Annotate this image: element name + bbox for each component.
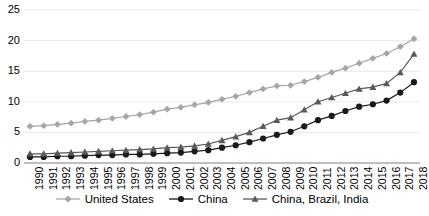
data-point-marker bbox=[205, 99, 212, 106]
data-point-marker bbox=[95, 117, 102, 124]
legend-item-label: China, Brazil, India bbox=[272, 193, 369, 205]
data-point-marker bbox=[27, 123, 34, 130]
x-tick-label: 2007 bbox=[267, 167, 278, 190]
x-tick-label: 2006 bbox=[253, 167, 264, 190]
data-point-marker bbox=[301, 123, 307, 129]
data-point-marker bbox=[178, 149, 184, 155]
x-tick-label: 2014 bbox=[363, 167, 374, 190]
data-point-marker bbox=[136, 111, 143, 118]
data-point-marker bbox=[356, 104, 362, 110]
legend-item-label: United States bbox=[85, 193, 154, 205]
legend-diamond-icon bbox=[55, 193, 81, 205]
data-point-marker bbox=[260, 123, 267, 129]
data-point-marker bbox=[411, 79, 417, 85]
data-point-marker bbox=[260, 86, 267, 93]
x-tick-label: 2004 bbox=[226, 167, 237, 190]
x-tick-label: 2009 bbox=[295, 167, 306, 190]
x-tick-label: 2017 bbox=[404, 167, 415, 190]
data-point-marker bbox=[329, 113, 335, 119]
x-tick-label: 2010 bbox=[308, 167, 319, 190]
data-point-marker bbox=[411, 51, 418, 57]
data-point-marker bbox=[328, 69, 335, 76]
x-tick-label: 2005 bbox=[240, 167, 251, 190]
data-point-marker bbox=[81, 118, 88, 125]
data-point-marker bbox=[178, 196, 184, 202]
data-point-marker bbox=[397, 90, 403, 96]
series-united-states bbox=[27, 35, 418, 129]
x-tick-label: 2002 bbox=[199, 167, 210, 190]
x-tick-label: 1995 bbox=[103, 167, 114, 190]
data-point-marker bbox=[315, 117, 321, 123]
data-point-marker bbox=[287, 114, 294, 120]
data-point-marker bbox=[64, 196, 71, 203]
data-point-marker bbox=[301, 106, 308, 112]
data-point-marker bbox=[273, 82, 280, 89]
x-tick-label: 2015 bbox=[377, 167, 388, 190]
data-point-marker bbox=[191, 101, 198, 108]
data-point-marker bbox=[219, 145, 225, 151]
x-tick-label: 1999 bbox=[157, 167, 168, 190]
data-point-marker bbox=[397, 43, 404, 50]
y-tick-label: 15 bbox=[0, 65, 20, 76]
x-tick-label: 1998 bbox=[144, 167, 155, 190]
y-tick-label: 25 bbox=[0, 4, 20, 15]
data-point-marker bbox=[164, 106, 171, 113]
data-point-marker bbox=[342, 65, 349, 72]
data-point-marker bbox=[54, 121, 61, 128]
x-tick-label: 2011 bbox=[322, 167, 333, 190]
y-tick-label: 5 bbox=[0, 126, 20, 137]
x-tick-label: 2012 bbox=[336, 167, 347, 190]
data-point-marker bbox=[232, 93, 239, 100]
data-point-marker bbox=[342, 108, 348, 114]
series-china-brazil-india bbox=[27, 51, 418, 157]
x-tick-label: 2001 bbox=[185, 167, 196, 190]
data-point-marker bbox=[150, 109, 157, 116]
data-point-marker bbox=[123, 113, 130, 120]
data-point-marker bbox=[370, 101, 376, 107]
x-tick-label: 1991 bbox=[48, 167, 59, 190]
data-point-marker bbox=[356, 60, 363, 67]
chart-legend: United StatesChinaChina, Brazil, India bbox=[0, 193, 423, 205]
x-tick-label: 1997 bbox=[130, 167, 141, 190]
data-point-marker bbox=[246, 139, 252, 145]
data-point-marker bbox=[383, 50, 390, 57]
data-point-marker bbox=[369, 55, 376, 62]
legend-item[interactable]: China bbox=[168, 193, 228, 205]
series-line bbox=[30, 39, 414, 127]
x-tick-label: 1990 bbox=[34, 167, 45, 190]
data-point-marker bbox=[274, 132, 280, 138]
data-point-marker bbox=[246, 89, 253, 96]
data-point-marker bbox=[411, 35, 418, 42]
y-tick-label: 10 bbox=[0, 96, 20, 107]
legend-item[interactable]: China, Brazil, India bbox=[242, 193, 369, 205]
legend-item-label: China bbox=[198, 193, 228, 205]
x-tick-label: 2003 bbox=[212, 167, 223, 190]
data-point-marker bbox=[383, 97, 389, 103]
data-point-marker bbox=[260, 135, 266, 141]
x-tick-label: 2008 bbox=[281, 167, 292, 190]
data-point-marker bbox=[287, 82, 294, 89]
data-point-marker bbox=[287, 129, 293, 135]
data-point-marker bbox=[191, 148, 197, 154]
legend-item[interactable]: United States bbox=[55, 193, 154, 205]
data-point-marker bbox=[164, 150, 170, 156]
data-point-marker bbox=[315, 74, 322, 81]
data-point-marker bbox=[68, 120, 75, 127]
x-tick-label: 1996 bbox=[116, 167, 127, 190]
data-point-marker bbox=[40, 122, 47, 129]
data-point-marker bbox=[177, 104, 184, 111]
x-tick-label: 2016 bbox=[391, 167, 402, 190]
data-point-marker bbox=[109, 115, 116, 122]
x-tick-label: 1994 bbox=[89, 167, 100, 190]
data-point-marker bbox=[301, 78, 308, 85]
legend-circle-icon bbox=[168, 193, 194, 205]
x-tick-label: 2013 bbox=[349, 167, 360, 190]
data-point-marker bbox=[205, 147, 211, 153]
data-series-layer bbox=[27, 35, 418, 160]
x-tick-label: 2000 bbox=[171, 167, 182, 190]
data-point-marker bbox=[233, 142, 239, 148]
y-tick-label: 20 bbox=[0, 35, 20, 46]
y-tick-label: 0 bbox=[0, 157, 20, 168]
legend-triangle-icon bbox=[242, 193, 268, 205]
